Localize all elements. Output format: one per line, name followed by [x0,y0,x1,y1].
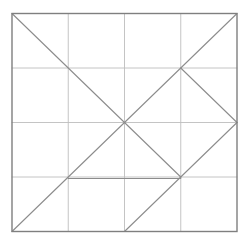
crease-right-chevron-upper-arm [181,68,237,123]
crease-pattern-figure [0,0,248,237]
crease-pattern-svg [0,0,248,237]
crease-main-diagonal-tl-to-three-quarter [12,14,181,178]
crease-right-chevron-lower-arm [181,123,237,178]
crease-three-quarter-to-bottom-midpoint [125,177,181,232]
